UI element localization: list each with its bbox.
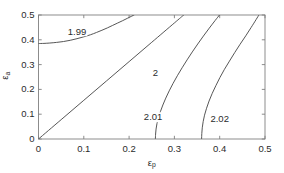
x-tick-label: 0.1 (77, 144, 90, 154)
contour-label-2-02: 2.02 (210, 114, 230, 124)
y-tick-label: 0.3 (21, 60, 34, 70)
x-tick-label: 0.5 (258, 144, 271, 154)
y-tick-label: 0 (29, 134, 34, 144)
x-tick-label: 0.2 (122, 144, 135, 154)
y-axis-title-subscript: a (4, 72, 11, 76)
x-tick-label: 0.4 (213, 144, 226, 154)
x-axis-title-subscript: p (152, 161, 156, 168)
y-axis-title-base: ε (0, 75, 10, 79)
contour-label-2: 2 (152, 68, 158, 78)
x-tick-label: 0 (36, 144, 41, 154)
y-tick-label: 0.4 (21, 35, 34, 45)
contour-label-2-01: 2.01 (143, 113, 163, 123)
x-tick-label: 0.3 (168, 144, 181, 154)
y-axis-title: εa (0, 72, 11, 80)
y-tick-label: 0.2 (21, 85, 34, 95)
y-tick-label: 0.1 (21, 109, 34, 119)
contour-plot-figure: 00.10.20.30.40.5 00.10.20.30.40.5 1.9922… (0, 0, 284, 173)
plot-canvas (0, 0, 284, 173)
contour-label-1-99: 1.99 (67, 27, 87, 37)
x-axis-title: εp (148, 158, 156, 169)
y-tick-label: 0.5 (21, 10, 34, 20)
